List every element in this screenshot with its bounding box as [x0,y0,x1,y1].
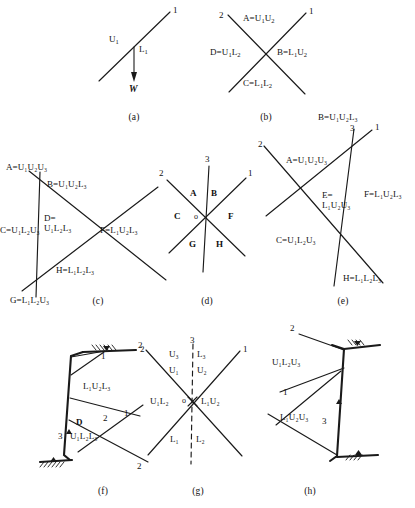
panel-e-region-h: H=L₁L₂L₃ [343,274,381,283]
panel-e-region-f: F=L₁U₂L₃ [364,190,402,199]
panel-a-caption: (a) [129,113,140,123]
panel-c-region-d-line1: D= [44,213,56,223]
panel-b-region-d: D=U1L2 [210,48,241,57]
panel-d-region-g: G [189,240,196,249]
panel-c-region-f: F=L₁U₂L₃ [100,226,138,235]
panel-d-region-f: F [228,212,234,221]
panel-f-label-bottom: U₁L₂L₃ [70,432,98,441]
panel-g-label-l2: L₂ [196,435,205,444]
panel-c-region-h: H=L₁L₂L₃ [56,266,94,275]
panel-d-origin: o [194,213,198,221]
panel-f-slip-lines [69,351,148,462]
panel-d-line-number-1: 1 [248,169,253,178]
panel-d-caption: (d) [201,297,212,307]
panel-f-caption: (f) [98,487,108,497]
panel-e-region-c: C=U₁L₂U₃ [276,236,316,245]
panel-g-label-u2: U₂ [197,366,207,375]
panel-d-region-c: C [174,212,181,221]
panel-g-label-l1u2: L₁U₂ [201,397,220,406]
panel-g-line-number-3: 3 [190,336,195,345]
panel-d-line-number-2: 2 [159,169,164,178]
panel-g-line-number-2: 2 [140,345,145,354]
panel-g-label-l1: L₁ [170,435,179,444]
panel-c-region-b: B=U₁U₂L₃ [47,180,87,189]
panel-c-region-g: G=L₁L₂U₃ [10,296,49,305]
panel-h-line-number-1: 1 [283,388,288,397]
panel-d-region-b: B [211,189,217,198]
panel-f-line-number-mid-2: 2 [103,414,108,423]
panel-f-hatching [40,345,116,467]
panel-g-label-u3: U₃ [169,350,179,359]
panel-f-line-number-left-3: 3 [58,432,63,441]
panel-f-line-number-bottom-2: 2 [137,462,142,471]
panel-b-caption: (b) [260,113,271,123]
panel-e-region-e-line2: L₁U₂U₃ [322,200,351,210]
panel-h-caption: (h) [304,487,315,497]
panel-f-line-number-top-1: 1 [101,352,106,361]
panel-e-region-e-line1: E= [322,190,333,200]
panel-c-lines [22,171,166,297]
panel-f-label-top: L₁U₂L₃ [83,382,111,391]
panel-g-label-u1: U₁ [169,366,179,375]
panel-c-region-d-line2: U₁L₂L₃ [44,223,72,233]
panel-g-label-u1l2: U₁L₂ [150,397,169,406]
panel-h-label-bottom: L₁U₂U₃ [280,413,309,422]
panel-e-caption: (e) [338,297,349,307]
panel-c-region-a: A=U₁U₂U₃ [6,163,47,172]
panel-c-region-d: D= U₁L₂L₃ [44,213,72,233]
panel-a-label-l1: L1 [139,45,148,54]
panel-f-label-d: D [76,418,83,427]
panel-e-region-a: A=U₁U₂U₃ [286,156,327,165]
panel-g-origin: o [182,397,186,405]
panel-g-label-l3: L₃ [197,350,206,359]
panel-e-region-e: E= L₁U₂U₃ [322,190,351,210]
panel-f-line-number-mid-1: 1 [124,409,129,418]
panel-b-line-number-2: 2 [219,11,224,20]
panel-b-line-number-1: 1 [309,7,314,16]
panel-c-caption: (c) [93,297,104,307]
panel-e-line-number-1: 1 [375,123,380,132]
panel-g-caption: (g) [192,487,203,497]
panel-a-u1-subscript: 1 [116,38,119,45]
panel-h-line-number-3: 3 [322,417,327,426]
panel-a-label-weight: W [129,85,138,95]
panel-a-lines [99,12,170,82]
panel-d-region-a: A [190,189,197,198]
panel-a-l1-subscript: 1 [145,48,148,55]
panel-b-region-a: A=U1U2 [243,14,275,23]
panel-e-line-number-2: 2 [258,140,263,149]
panel-h-line-number-2: 2 [290,324,295,333]
figure-container: 1 U1 L1 W (a) 1 2 A=U1U2 B=L1U2 C=L1L2 D… [0,0,415,508]
panel-h-slip-lines [268,334,344,455]
panel-g-line-number-1: 1 [243,345,248,354]
panel-a-line-number-1: 1 [173,6,178,15]
panel-b-region-c: C=L1L2 [243,79,272,88]
panel-b-region-b: B=L1U2 [277,48,307,57]
panel-a-label-u1: U1 [109,35,119,44]
panel-e-line-number-3: 3 [350,124,355,133]
panel-h-label-top: U₁L₂U₃ [272,358,301,367]
panel-d-region-h: H [216,240,223,249]
panel-e-region-b: B=U₁U₂L₃ [318,113,358,122]
panel-c-region-c: C=U₁L₂U₃ [0,226,40,235]
panel-d-line-number-3: 3 [205,155,210,164]
